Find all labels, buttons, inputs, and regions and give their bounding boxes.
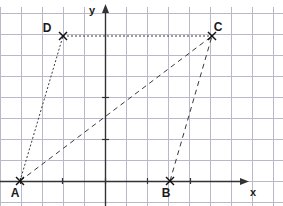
segment-a-d — [20, 36, 63, 181]
x-axis-arrow-icon — [240, 178, 249, 185]
point-label-d: D — [43, 21, 52, 35]
segment-a-c — [20, 36, 212, 181]
point-label-b: B — [162, 186, 171, 200]
figure-canvas: ABCDxy — [0, 0, 283, 206]
point-label-c: C — [214, 20, 223, 34]
labels: ABCDxy — [11, 4, 257, 200]
segment-b-c — [170, 36, 212, 181]
y-axis-arrow-icon — [102, 4, 109, 13]
point-label-a: A — [11, 186, 20, 200]
x-axis-label: x — [250, 186, 257, 198]
coordinate-plot: ABCDxy — [0, 0, 283, 206]
y-axis-label: y — [89, 4, 96, 16]
segments — [20, 36, 212, 181]
